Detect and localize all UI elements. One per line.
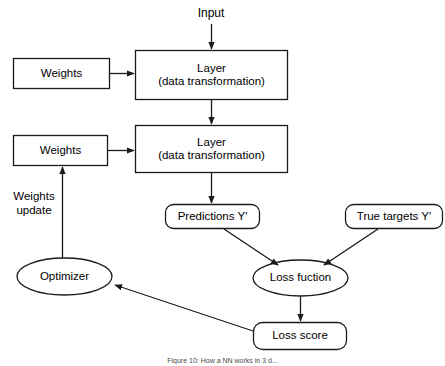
- node-layer-top-shape: [136, 51, 288, 100]
- node-layer-bottom-shape: [136, 126, 288, 173]
- weights-update-label: Weights update: [5, 190, 63, 218]
- diagram-canvas: [0, 0, 445, 366]
- figure-diagram: Input Weights Layer(data transformation)…: [0, 0, 445, 366]
- node-loss-score-shape: [254, 323, 347, 350]
- node-weights-top-shape: [14, 59, 110, 89]
- node-optimizer-shape: [17, 258, 112, 295]
- edge-loss-score-to-optimizer: [115, 285, 253, 331]
- edge-true-targets-to-loss-function: [324, 229, 378, 265]
- figure-caption: Figure 10: How a NN works in 3 d...: [0, 357, 445, 364]
- node-weights-bottom-shape: [14, 136, 108, 166]
- input-label: Input: [171, 6, 251, 20]
- node-true-targets-shape: [346, 205, 443, 229]
- edge-predictions-to-loss-function: [224, 229, 278, 265]
- node-predictions-shape: [166, 205, 260, 229]
- node-loss-function-shape: [253, 260, 348, 296]
